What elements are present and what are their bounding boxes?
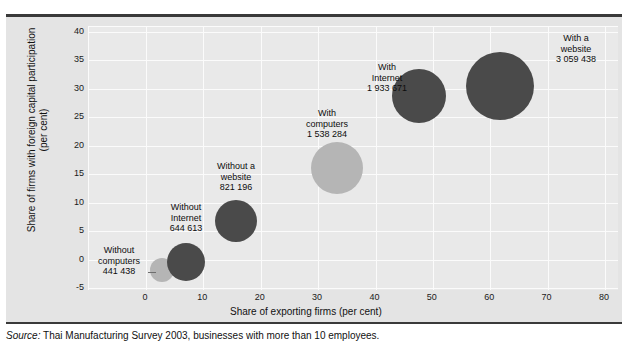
bottom-rule <box>6 322 622 324</box>
y-axis-label: Share of firms with foreign capital part… <box>26 0 50 264</box>
x-tick-label: 50 <box>412 292 452 303</box>
x-tick-label: 30 <box>297 292 337 303</box>
gridline-vertical <box>261 27 262 290</box>
y-tick-label: 30 <box>56 83 84 93</box>
bubble-label: Without computers 441 438 <box>88 245 150 277</box>
y-tick-label: 25 <box>56 111 84 121</box>
gridline-vertical <box>203 27 204 290</box>
bubble-marker[interactable] <box>167 243 205 281</box>
y-tick-label: 15 <box>56 168 84 178</box>
x-tick-label: 40 <box>355 292 395 303</box>
y-tick-label: 40 <box>56 26 84 36</box>
bubble-label: Without Internet 644 613 <box>152 202 220 234</box>
y-axis-label-line1: Share of firms with foreign capital part… <box>26 28 37 233</box>
bubble-label: Without a website 821 196 <box>200 161 272 193</box>
y-tick-label: -5 <box>56 282 84 292</box>
y-tick-label: 0 <box>56 254 84 264</box>
bubble-label: With a website 3 059 438 <box>538 33 614 65</box>
bubble-marker[interactable] <box>311 142 363 194</box>
source-text: Thai Manufacturing Survey 2003, business… <box>40 330 379 341</box>
y-tick-label: 5 <box>56 225 84 235</box>
gridline-horizontal <box>89 146 618 147</box>
bubble-label: With Internet 1 933 671 <box>352 62 422 94</box>
x-tick-label: 20 <box>240 292 280 303</box>
gridline-vertical <box>605 27 606 290</box>
x-axis-label: Share of exporting firms (per cent) <box>230 306 382 318</box>
x-tick-label: 10 <box>182 292 222 303</box>
y-tick-label: 35 <box>56 54 84 64</box>
x-axis-ticks: 01020304050607080 <box>88 292 618 306</box>
gridline-vertical <box>548 27 549 290</box>
figure-page: 4035302520151050-5 01020304050607080 Sha… <box>0 0 628 352</box>
y-axis-label-line2: (per cent) <box>38 109 49 152</box>
y-axis-ticks: 4035302520151050-5 <box>54 26 84 290</box>
y-tick-label: 10 <box>56 197 84 207</box>
y-tick-label: 20 <box>56 140 84 150</box>
gridline-vertical <box>433 27 434 290</box>
gridline-horizontal <box>89 288 618 289</box>
x-tick-label: 0 <box>125 292 165 303</box>
bubble-marker[interactable] <box>466 52 534 120</box>
source-prefix: Source: <box>6 330 40 341</box>
x-tick-label: 80 <box>584 292 624 303</box>
source-note: Source: Thai Manufacturing Survey 2003, … <box>6 329 379 342</box>
x-tick-label: 70 <box>527 292 567 303</box>
bubble-label: With computers 1 538 284 <box>288 108 366 140</box>
bubble-marker[interactable] <box>215 200 257 242</box>
x-tick-label: 60 <box>469 292 509 303</box>
